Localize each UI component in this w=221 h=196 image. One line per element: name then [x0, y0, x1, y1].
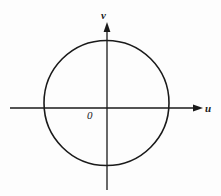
- unit-circle-figure: v u 0: [0, 0, 221, 196]
- v-axis-arrowhead: [104, 22, 111, 32]
- origin-label: 0: [87, 110, 93, 121]
- v-axis-label: v: [101, 10, 106, 21]
- figure-canvas: [0, 0, 221, 196]
- u-axis-arrowhead: [193, 105, 203, 112]
- u-axis-label: u: [205, 103, 211, 114]
